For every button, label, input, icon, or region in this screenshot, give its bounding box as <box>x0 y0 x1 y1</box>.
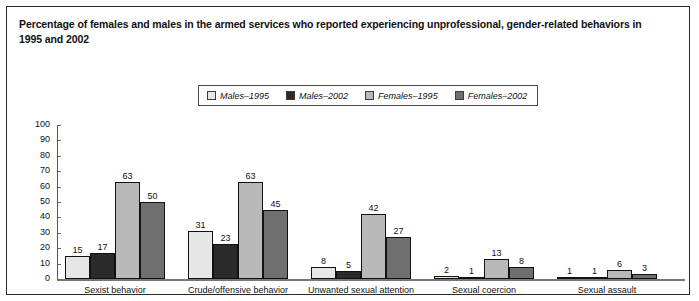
legend-item-label: Males–1995 <box>220 91 269 101</box>
bar[interactable]: 17 <box>90 253 115 279</box>
y-axis-tick-mark <box>57 233 61 234</box>
legend-swatch-icon <box>286 91 295 100</box>
x-axis-category-label: Sexual assault <box>578 285 637 295</box>
y-axis-tick-label: 90 <box>40 134 50 144</box>
y-axis-tick-label: 60 <box>40 181 50 191</box>
bar-group: 1163Sexual assault <box>557 125 657 279</box>
bar-value-label: 5 <box>346 261 351 270</box>
y-axis-tick-label: 20 <box>40 242 50 252</box>
y-axis-tick-mark <box>57 248 61 249</box>
y-axis-tick-label: 0 <box>45 273 50 283</box>
legend-swatch-icon <box>455 91 464 100</box>
y-axis-tick-mark <box>57 279 61 280</box>
bar[interactable]: 27 <box>386 237 411 279</box>
bar[interactable]: 45 <box>263 210 288 279</box>
legend-item-3[interactable]: Females–2002 <box>455 91 528 101</box>
y-axis-tick-mark <box>57 264 61 265</box>
bar-value-label: 50 <box>147 192 157 201</box>
bar[interactable]: 6 <box>607 270 632 279</box>
bar-group-bars: 31236345 <box>188 125 288 279</box>
legend-item-label: Males–2002 <box>299 91 348 101</box>
y-axis-tick-mark <box>57 171 61 172</box>
bar-value-label: 8 <box>519 257 524 266</box>
bar-value-label: 1 <box>592 267 597 276</box>
bar-value-label: 17 <box>97 243 107 252</box>
bar-group: 854227Unwanted sexual attention <box>311 125 411 279</box>
y-axis-tick-label: 10 <box>40 258 50 268</box>
legend-item-1[interactable]: Males–2002 <box>286 91 348 101</box>
bar-group-bars: 1163 <box>557 125 657 279</box>
bar-value-label: 3 <box>642 264 647 273</box>
x-axis-category-label: Unwanted sexual attention <box>308 285 414 295</box>
y-axis-tick-label: 100 <box>35 119 50 129</box>
bar[interactable]: 63 <box>115 182 140 279</box>
bar[interactable]: 13 <box>484 259 509 279</box>
y-axis-tick-label: 30 <box>40 227 50 237</box>
bar[interactable]: 31 <box>188 231 213 279</box>
bar[interactable]: 5 <box>336 271 361 279</box>
x-axis-category-label: Sexual coercion <box>452 285 516 295</box>
bar[interactable]: 2 <box>434 276 459 279</box>
y-axis-tick-label: 80 <box>40 150 50 160</box>
bar[interactable]: 1 <box>459 277 484 279</box>
bar[interactable]: 23 <box>213 244 238 279</box>
y-axis-tick-mark <box>57 202 61 203</box>
bar[interactable]: 8 <box>311 267 336 279</box>
y-axis-tick-mark <box>57 125 61 126</box>
bar-value-label: 45 <box>270 200 280 209</box>
legend-item-0[interactable]: Males–1995 <box>207 91 269 101</box>
y-axis-tick-label: 70 <box>40 165 50 175</box>
bar-group: 31236345Crude/offensive behavior <box>188 125 288 279</box>
bar-value-label: 31 <box>195 221 205 230</box>
y-axis-tick-label: 50 <box>40 196 50 206</box>
bar-group-bars: 21138 <box>434 125 534 279</box>
bar[interactable]: 15 <box>65 256 90 279</box>
bar-value-label: 8 <box>321 257 326 266</box>
bar-value-label: 2 <box>444 266 449 275</box>
x-axis-category-label: Crude/offensive behavior <box>188 285 288 295</box>
bar[interactable]: 42 <box>361 214 386 279</box>
bar[interactable]: 63 <box>238 182 263 279</box>
bar-value-label: 6 <box>617 260 622 269</box>
chart-figure: Percentage of females and males in the a… <box>6 6 690 295</box>
chart-title: Percentage of females and males in the a… <box>19 17 667 47</box>
bar-value-label: 1 <box>567 267 572 276</box>
bar[interactable]: 50 <box>140 202 165 279</box>
chart-legend: Males–1995Males–2002Females–1995Females–… <box>198 85 538 106</box>
x-axis-line <box>57 279 685 281</box>
plot-area: 010203040506070809010015176350Sexist beh… <box>57 125 684 279</box>
bar-value-label: 15 <box>72 246 82 255</box>
legend-item-2[interactable]: Females–1995 <box>365 91 438 101</box>
x-axis-category-label: Sexist behavior <box>84 285 146 295</box>
bar-value-label: 13 <box>491 249 501 258</box>
bar-value-label: 63 <box>245 172 255 181</box>
bar[interactable]: 3 <box>632 274 657 279</box>
bar-value-label: 27 <box>393 227 403 236</box>
y-axis-tick-mark <box>57 156 61 157</box>
bar[interactable]: 1 <box>557 277 582 279</box>
bar[interactable]: 1 <box>582 277 607 279</box>
bar-value-label: 1 <box>469 267 474 276</box>
bar-group-bars: 854227 <box>311 125 411 279</box>
bar[interactable]: 8 <box>509 267 534 279</box>
y-axis-tick-mark <box>57 217 61 218</box>
legend-swatch-icon <box>207 91 216 100</box>
y-axis-tick-mark <box>57 187 61 188</box>
bar-value-label: 42 <box>368 204 378 213</box>
legend-swatch-icon <box>365 91 374 100</box>
bar-group-bars: 15176350 <box>65 125 165 279</box>
y-axis-tick-mark <box>57 140 61 141</box>
bar-value-label: 23 <box>220 234 230 243</box>
y-axis-tick-label: 40 <box>40 211 50 221</box>
legend-item-label: Females–1995 <box>378 91 438 101</box>
legend-item-label: Females–2002 <box>468 91 528 101</box>
bar-group: 21138Sexual coercion <box>434 125 534 279</box>
bar-value-label: 63 <box>122 172 132 181</box>
bar-group: 15176350Sexist behavior <box>65 125 165 279</box>
